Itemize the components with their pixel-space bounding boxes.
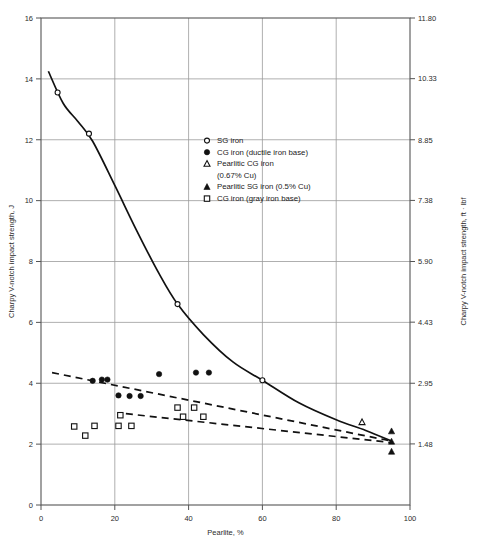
x-axis-tick-label: 100 [404,514,417,523]
y-axis-tick-label-right: 2.95 [418,379,433,388]
y-axis-tick-label-right: 1.48 [418,440,433,449]
legend-label: Pearlitic SG iron (0.5% Cu) [217,182,311,191]
data-point-filled-circle [116,393,121,398]
y-axis-tick-label-right: 10.33 [418,74,437,83]
data-point-open-square [72,424,77,429]
legend-label: CG iron (gray iron base) [217,194,301,203]
x-axis-title: Pearlite, % [207,528,244,537]
legend-label: (0.67% Cu) [217,171,257,180]
x-axis-tick-label: 60 [258,514,266,523]
y-axis-tick-label-right: 7.38 [418,196,433,205]
y-axis-tick-label-right: 4.43 [418,318,433,327]
data-point-open-square [118,413,123,418]
data-point-open-square [92,423,97,428]
y-axis-tick-label-right: 11.80 [418,14,436,23]
data-point-filled-circle [156,371,161,376]
chart-figure: 020406080100Pearlite, %0246810121416Char… [0,0,478,557]
y-axis-tick-label-left: 14 [25,75,33,84]
legend-marker-open-circle [205,138,210,143]
y-axis-tick-label-left: 10 [25,196,33,205]
y-axis-tick-label-left: 12 [25,136,33,145]
data-point-open-square [180,414,185,419]
y-axis-tick-label-left: 4 [29,379,33,388]
y-axis-tick-label-left: 0 [29,501,33,510]
data-point-open-square [129,423,134,428]
x-axis-tick-label: 80 [332,514,340,523]
data-point-filled-circle [138,393,143,398]
y-axis-title-left: Charpy V-notch impact strength, J [7,205,16,318]
legend-label: SG iron [217,136,243,145]
chart-background [0,0,478,557]
data-point-filled-circle [90,378,95,383]
y-axis-tick-label-left: 2 [29,440,33,449]
legend-marker-filled-circle [204,150,209,155]
x-axis-tick-label: 40 [184,514,192,523]
charpy-impact-strength-scatter-chart: 020406080100Pearlite, %0246810121416Char… [0,0,478,557]
data-point-open-square [191,405,196,410]
data-point-open-square [175,405,180,410]
data-point-open-square [201,414,206,419]
x-axis-tick-label: 20 [111,514,119,523]
data-point-open-circle [260,378,265,383]
data-point-open-circle [55,90,60,95]
legend-marker-open-square [204,196,209,201]
data-point-open-circle [175,302,180,307]
legend-label: Pearlitic CG iron [217,159,274,168]
data-point-filled-circle [193,370,198,375]
data-point-filled-circle [206,370,211,375]
data-point-open-square [83,433,88,438]
data-point-filled-circle [99,377,104,382]
data-point-open-circle [86,131,91,136]
data-point-open-square [116,423,121,428]
y-axis-title-right: Charpy V-notch impact strength, ft · lbf [459,197,468,326]
legend-label: CG iron (ductile iron base) [217,148,308,157]
x-axis-tick-label: 0 [39,514,43,523]
y-axis-tick-label-left: 6 [29,318,33,327]
y-axis-tick-label-left: 8 [29,257,33,266]
data-point-filled-circle [105,377,110,382]
y-axis-tick-label-right: 8.85 [418,136,433,145]
y-axis-tick-label-right: 5.90 [418,257,433,266]
y-axis-tick-label-left: 16 [25,14,33,23]
data-point-filled-circle [127,393,132,398]
